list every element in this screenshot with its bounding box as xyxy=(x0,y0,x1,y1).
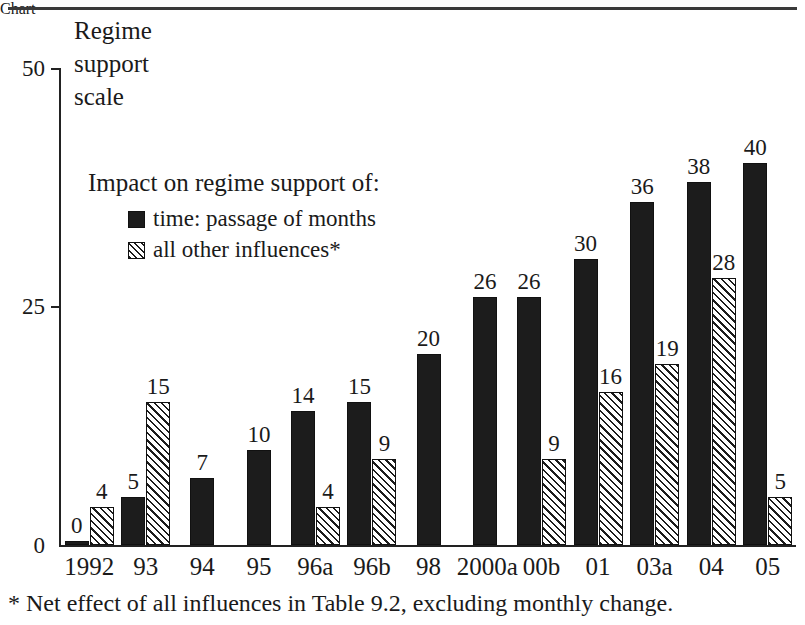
chart-footnote: * Net effect of all influences in Table … xyxy=(8,589,673,617)
x-axis-label-05: 05 xyxy=(739,553,796,581)
bar-value-other-05: 5 xyxy=(755,470,805,493)
bar-time-04 xyxy=(687,182,711,545)
bar-time-96b xyxy=(347,402,371,545)
bar-value-time-04: 38 xyxy=(674,155,724,178)
x-axis-label-00b: 00b xyxy=(513,553,570,581)
bar-time-95 xyxy=(247,450,271,545)
x-axis-label-98: 98 xyxy=(400,553,457,581)
bar-other-96a xyxy=(316,507,340,545)
top-horizontal-rule xyxy=(8,7,797,10)
legend-entry-time: time: passage of months xyxy=(128,206,380,232)
x-axis-label-96b: 96b xyxy=(344,553,401,581)
bar-time-94 xyxy=(190,478,214,545)
bar-other-1992 xyxy=(90,507,114,545)
bar-value-time-95: 10 xyxy=(234,423,284,446)
bar-other-00b xyxy=(542,459,566,545)
x-axis-label-1992: 1992 xyxy=(61,553,118,581)
y-axis-label-0: 0 xyxy=(5,534,45,557)
bar-value-time-03a: 36 xyxy=(617,175,667,198)
bar-time-05 xyxy=(743,163,767,545)
x-axis-label-93: 93 xyxy=(118,553,175,581)
legend-label-other: all other influences* xyxy=(153,237,341,263)
legend-title: Impact on regime support of: xyxy=(88,168,380,198)
bar-value-other-1992: 4 xyxy=(77,480,127,503)
x-axis-label-95: 95 xyxy=(231,553,288,581)
bar-value-other-01: 16 xyxy=(586,365,636,388)
bar-value-other-04: 28 xyxy=(699,251,749,274)
bar-time-93 xyxy=(121,497,145,545)
bar-other-01 xyxy=(599,392,623,545)
bar-time-01 xyxy=(574,259,598,545)
bar-value-time-05: 40 xyxy=(730,136,780,159)
bar-other-04 xyxy=(712,278,736,545)
bar-value-other-93: 15 xyxy=(133,375,183,398)
bar-value-time-2000a: 26 xyxy=(460,270,510,293)
x-axis-label-96a: 96a xyxy=(287,553,344,581)
x-axis-label-94: 94 xyxy=(174,553,231,581)
hatched-square-icon xyxy=(128,242,145,259)
bar-time-98 xyxy=(417,354,441,545)
chart-legend: Impact on regime support of: time: passa… xyxy=(88,168,380,263)
bar-value-other-03a: 19 xyxy=(642,337,692,360)
x-axis-label-01: 01 xyxy=(570,553,627,581)
bar-value-time-00b: 26 xyxy=(504,270,554,293)
bar-value-time-96b: 15 xyxy=(334,375,384,398)
bar-value-time-01: 30 xyxy=(561,232,611,255)
x-axis-baseline xyxy=(59,545,796,547)
bar-other-93 xyxy=(146,402,170,545)
y-axis-title: Regime support scale xyxy=(74,14,152,113)
bar-time-96a xyxy=(291,411,315,545)
bar-value-time-96a: 14 xyxy=(278,384,328,407)
solid-square-icon xyxy=(128,211,145,228)
bar-value-other-96b: 9 xyxy=(359,432,409,455)
y-axis-label-50: 50 xyxy=(5,57,45,80)
y-tick-mark-25 xyxy=(51,306,60,308)
bar-time-2000a xyxy=(473,297,497,545)
x-axis-label-04: 04 xyxy=(683,553,740,581)
bar-value-other-96a: 4 xyxy=(303,480,353,503)
bar-value-time-98: 20 xyxy=(404,327,454,350)
bar-other-03a xyxy=(655,364,679,545)
x-axis-label-03a: 03a xyxy=(626,553,683,581)
bar-value-other-00b: 9 xyxy=(529,432,579,455)
bar-other-96b xyxy=(372,459,396,545)
bar-other-05 xyxy=(768,497,792,545)
bar-value-time-93: 5 xyxy=(108,470,158,493)
bar-value-time-94: 7 xyxy=(177,451,227,474)
y-tick-mark-50 xyxy=(51,68,60,70)
bar-time-03a xyxy=(630,202,654,545)
legend-label-time: time: passage of months xyxy=(153,206,376,232)
legend-entry-other: all other influences* xyxy=(128,237,380,263)
y-axis-label-25: 25 xyxy=(5,295,45,318)
x-axis-label-2000a: 2000a xyxy=(457,553,514,581)
bar-time-00b xyxy=(517,297,541,545)
